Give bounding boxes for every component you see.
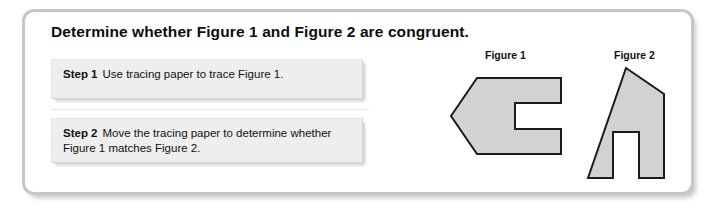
step-1-text: Use tracing paper to trace Figure 1.	[103, 68, 284, 80]
figures-area: Figure 1 Figure 2	[445, 42, 710, 202]
page-title: Determine whether Figure 1 and Figure 2 …	[51, 23, 469, 41]
figure-2-caption: Figure 2	[614, 49, 655, 61]
worksheet-card: Determine whether Figure 1 and Figure 2 …	[22, 9, 694, 195]
figure-1-shape-left-pointing-c-arrow	[447, 68, 569, 164]
steps-column: Step 1Use tracing paper to trace Figure …	[51, 59, 391, 163]
figure-2-shape-house-with-notch	[578, 64, 674, 186]
step-box-2: Step 2Move the tracing paper to determin…	[51, 118, 363, 163]
figure-2-polygon	[588, 68, 664, 178]
figure-1-polygon	[451, 78, 561, 154]
step-box-1: Step 1Use tracing paper to trace Figure …	[51, 59, 363, 99]
steps-divider	[51, 109, 369, 110]
figure-1-caption: Figure 1	[485, 49, 526, 61]
step-1-label: Step 1	[63, 68, 98, 80]
step-2-text: Move the tracing paper to determine whet…	[63, 127, 331, 154]
step-2-label: Step 2	[63, 127, 98, 139]
